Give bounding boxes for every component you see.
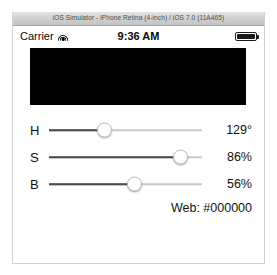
status-bar-right xyxy=(181,32,257,42)
brightness-slider-fill xyxy=(49,183,135,185)
hue-slider[interactable] xyxy=(49,119,202,141)
brightness-label: B xyxy=(30,178,49,191)
hue-value: 129° xyxy=(208,124,252,137)
brightness-slider-thumb[interactable] xyxy=(127,177,142,192)
slider-row-saturation: S 86% xyxy=(30,144,252,170)
saturation-slider-thumb[interactable] xyxy=(173,150,188,165)
saturation-slider[interactable] xyxy=(49,146,202,168)
brightness-slider[interactable] xyxy=(49,173,202,195)
hue-slider-thumb[interactable] xyxy=(97,123,112,138)
battery-full-icon xyxy=(235,32,257,42)
window-titlebar[interactable]: iOS Simulator - iPhone Retina (4-inch) /… xyxy=(13,12,264,26)
app-content: H 129° S 86% B xyxy=(13,46,264,263)
slider-row-hue: H 129° xyxy=(30,117,252,143)
window-title: iOS Simulator - iPhone Retina (4-inch) /… xyxy=(53,15,224,22)
brightness-value: 56% xyxy=(208,178,252,191)
saturation-label: S xyxy=(30,151,49,164)
status-bar-clock: 9:36 AM xyxy=(96,31,181,42)
ios-status-bar: Carrier 9:36 AM xyxy=(13,27,264,46)
hue-label: H xyxy=(30,124,49,137)
carrier-label: Carrier xyxy=(20,31,54,42)
saturation-value: 86% xyxy=(208,151,252,164)
saturation-slider-fill xyxy=(49,156,181,158)
ios-simulator-window: iOS Simulator - iPhone Retina (4-inch) /… xyxy=(12,12,265,264)
web-color-label: Web: #000000 xyxy=(30,201,252,215)
battery-cap xyxy=(257,35,259,39)
battery-fill xyxy=(237,34,255,40)
color-preview-swatch xyxy=(30,48,246,105)
status-bar-left: Carrier xyxy=(20,31,96,42)
wifi-icon xyxy=(58,32,69,41)
page-backdrop: iOS Simulator - iPhone Retina (4-inch) /… xyxy=(0,0,277,275)
slider-row-brightness: B 56% xyxy=(30,171,252,197)
